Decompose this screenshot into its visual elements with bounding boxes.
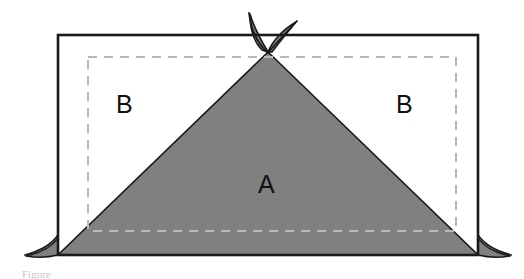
label-region-b-left: B bbox=[116, 92, 133, 117]
geometry-figure bbox=[0, 0, 524, 279]
label-region-b-right: B bbox=[396, 92, 413, 117]
figure-caption: Figure bbox=[22, 268, 51, 279]
label-region-a: A bbox=[258, 172, 275, 197]
diagram-canvas: B B A Figure bbox=[0, 0, 524, 279]
